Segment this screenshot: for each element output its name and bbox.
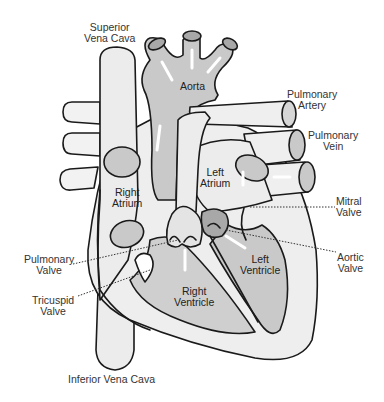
label-inferior-vena-cava-line1: Inferior Vena Cava	[68, 374, 155, 385]
label-superior-vena-cava: Superior Vena Cava	[84, 22, 135, 44]
label-tricuspid-valve-line2: Valve	[32, 306, 74, 317]
label-mitral-valve: Mitral Valve	[336, 196, 362, 218]
label-inferior-vena-cava: Inferior Vena Cava	[68, 374, 155, 385]
label-aorta: Aorta	[180, 81, 205, 92]
label-left-ventricle: Left Ventricle	[240, 254, 280, 276]
label-pulmonary-artery-line2: Artery	[287, 100, 337, 111]
right-atrium-opening-upper	[104, 147, 140, 177]
label-left-atrium: Left Atrium	[200, 167, 230, 189]
pulmonary-vein-upper-opening	[289, 130, 305, 160]
label-superior-vena-cava-line2: Vena Cava	[84, 33, 135, 44]
label-pulmonary-valve: Pulmonary Valve	[24, 254, 74, 276]
label-right-ventricle-line2: Ventricle	[174, 297, 214, 308]
label-aortic-valve: Aortic Valve	[337, 252, 364, 274]
label-pulmonary-valve-line2: Valve	[24, 265, 74, 276]
label-mitral-valve-line2: Valve	[336, 207, 362, 218]
label-pulmonary-vein-line2: Vein	[308, 141, 358, 152]
label-right-atrium-line2: Atrium	[112, 198, 142, 209]
right-pulmonary-vessel-lower	[60, 167, 98, 190]
label-right-ventricle: Right Ventricle	[174, 286, 214, 308]
right-pulmonary-vessel-upper	[63, 102, 100, 124]
pulmonary-vein-lower-opening	[299, 162, 315, 192]
label-aortic-valve-line2: Valve	[337, 263, 364, 274]
label-right-atrium: Right Atrium	[112, 187, 142, 209]
label-aorta-line1: Aorta	[180, 81, 205, 92]
heart-diagram	[0, 0, 384, 402]
right-pulmonary-vessel-middle	[63, 133, 100, 156]
label-left-atrium-line2: Atrium	[200, 178, 230, 189]
label-pulmonary-vein: Pulmonary Vein	[308, 130, 358, 152]
label-left-ventricle-line2: Ventricle	[240, 265, 280, 276]
label-pulmonary-artery: Pulmonary Artery	[287, 89, 337, 111]
aorta-branch-mid-opening	[183, 31, 201, 41]
label-tricuspid-valve: Tricuspid Valve	[32, 295, 74, 317]
